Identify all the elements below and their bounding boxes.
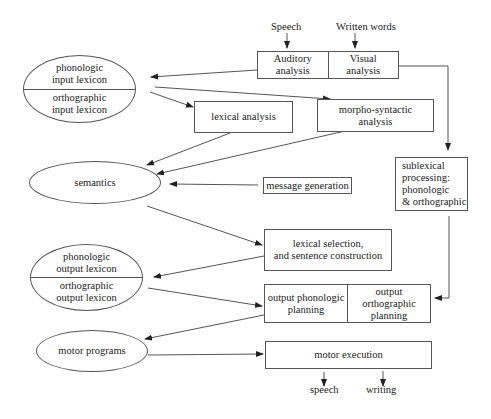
arrow-sublexical-to-orthographic-planning xyxy=(435,216,449,298)
auditory-visual-analysis-box: Auditory analysis Visual analysis xyxy=(257,51,399,79)
arrow-auditory-to-input-lexicon xyxy=(151,70,257,77)
sublexical-processing-box: sublexical processing: phonologic & orth… xyxy=(395,157,468,211)
output-label-writing: writing xyxy=(366,384,396,396)
arrow-motor-programs-to-execution xyxy=(148,354,263,355)
lexical-analysis-box: lexical analysis xyxy=(194,101,293,133)
output-label-speech: speech xyxy=(310,384,339,396)
output-planning-box: output phonologic planning output orthog… xyxy=(264,284,431,323)
arrow-morpho-to-semantics xyxy=(157,131,345,174)
arrow-lexical-selection-to-output-lexicon xyxy=(154,256,264,277)
auditory-analysis: Auditory analysis xyxy=(258,52,329,78)
output-orthographic-planning: output orthographic planning xyxy=(348,285,430,322)
input-label-speech: Speech xyxy=(271,21,301,33)
morpho-syntactic-analysis-box: morpho-syntactic analysis xyxy=(317,99,434,132)
arrow-input-lexicon-to-lexical-analysis xyxy=(150,92,193,107)
arrow-message-to-semantics xyxy=(170,184,258,185)
message-generation-box: message generation xyxy=(263,177,352,194)
arrow-output-lexicon-to-planning xyxy=(148,288,262,306)
arrow-semantics-to-lexical-selection xyxy=(147,206,262,245)
arrow-planning-to-motor-programs xyxy=(145,315,264,339)
motor-programs-ellipse: motor programs xyxy=(36,330,148,372)
output-lexicon-ellipse: phonologic output lexicon orthographic o… xyxy=(30,244,143,311)
semantics-ellipse: semantics xyxy=(29,161,161,204)
input-lexicon-ellipse: phonologic input lexicon orthographic in… xyxy=(23,55,136,123)
output-phonologic-planning: output phonologic planning xyxy=(265,285,348,322)
motor-execution-box: motor execution xyxy=(265,341,432,369)
arrow-input-lexicon-to-morpho xyxy=(155,87,330,99)
lexical-selection-box: lexical selection, and sentence construc… xyxy=(264,229,392,271)
visual-analysis: Visual analysis xyxy=(329,52,399,78)
input-label-written-words: Written words xyxy=(336,21,396,33)
